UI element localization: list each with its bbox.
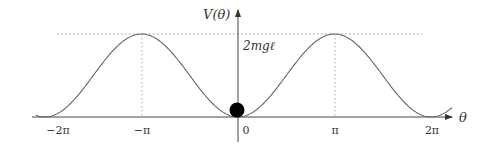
tick-label-pi: π (331, 124, 338, 137)
tick-label-zero: 0 (243, 124, 250, 137)
tick-label-2pi: 2π (425, 124, 439, 137)
tick-label-neg-pi: −π (134, 124, 150, 137)
max-value-label: 2mgℓ (242, 39, 275, 53)
x-axis-label: θ (459, 110, 467, 125)
y-axis-label: V(θ) (203, 7, 230, 22)
tick-label-neg-2pi: −2π (46, 124, 69, 137)
ball-marker (230, 103, 245, 118)
potential-diagram: V(θ) 2mgℓ θ −2π −π 0 π 2π (0, 0, 499, 150)
